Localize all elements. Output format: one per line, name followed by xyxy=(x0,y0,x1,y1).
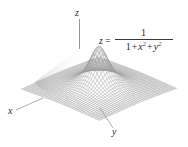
surface-plot-figure: z x y z = 1 1+x2+y2 xyxy=(0,0,188,147)
denominator-y-exponent: 2 xyxy=(158,40,161,47)
surface-mesh-plot xyxy=(0,0,188,147)
equation-lhs: z xyxy=(99,35,103,46)
fraction-numerator: 1 xyxy=(137,28,150,39)
x-axis-leader-line xyxy=(16,98,43,110)
axis-label-y: y xyxy=(112,127,116,137)
axis-label-z: z xyxy=(75,8,79,18)
equation-relation: = xyxy=(105,35,111,46)
denominator-one: 1 xyxy=(126,41,131,52)
axis-label-x: x xyxy=(8,106,12,116)
equation: z = 1 1+x2+y2 xyxy=(99,28,173,52)
equation-fraction: 1 1+x2+y2 xyxy=(115,28,173,52)
denominator-plus-2: + xyxy=(146,41,154,52)
fraction-denominator: 1+x2+y2 xyxy=(124,40,164,52)
